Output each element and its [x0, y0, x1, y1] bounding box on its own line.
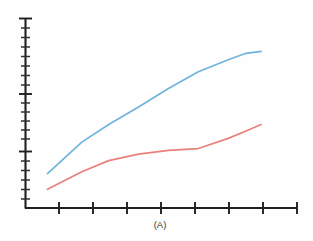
chart-figure: (A) [0, 0, 313, 241]
x-axis-caption: (A) [154, 219, 167, 230]
plot-background [0, 0, 313, 241]
panel-label: (A) [154, 219, 167, 230]
chart-canvas: (A) [0, 0, 313, 241]
